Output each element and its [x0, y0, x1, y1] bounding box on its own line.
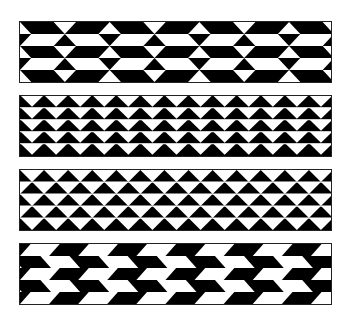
frieze-strip-3	[19, 169, 332, 231]
frieze-strip-1	[19, 21, 332, 83]
bowtie-bands-pattern	[20, 22, 331, 82]
frieze-strip-4	[19, 243, 332, 305]
alternating-triangles-pattern	[20, 170, 331, 230]
frieze-strip-2	[19, 95, 332, 157]
down-triangles-pattern	[20, 96, 331, 156]
chevron-parallelograms-pattern	[20, 244, 331, 304]
